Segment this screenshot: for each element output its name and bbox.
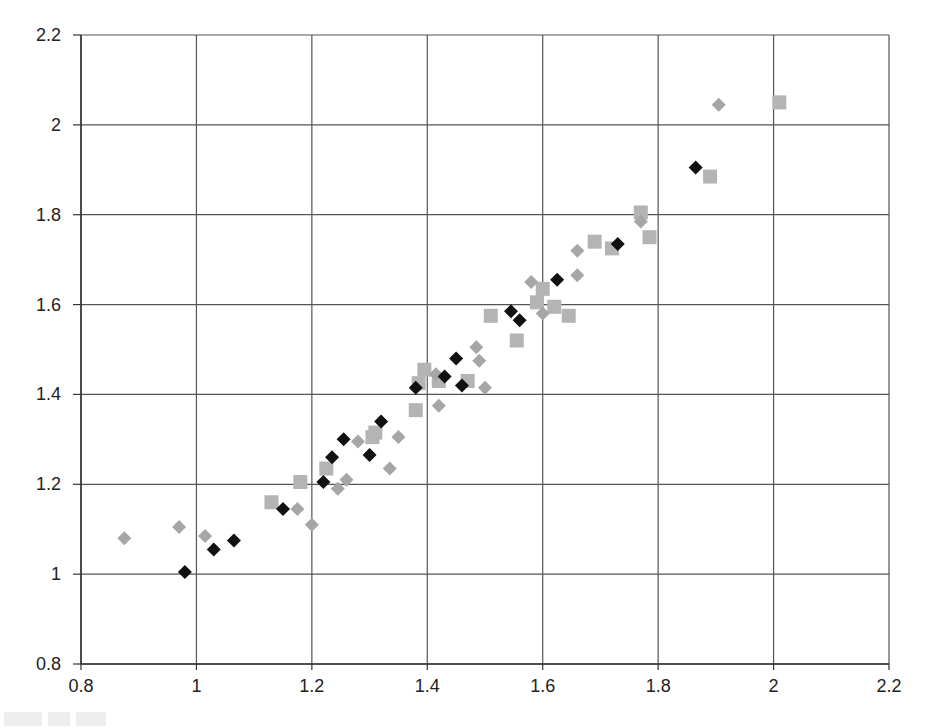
chart-canvas: 0.811.21.41.61.822.2 0.811.21.41.61.822.… (0, 0, 925, 728)
diamond-marker (290, 502, 304, 516)
data-points (117, 95, 786, 579)
x-tick-label: 1.6 (530, 676, 555, 696)
diamond-marker (207, 542, 221, 556)
y-tick-label: 1 (51, 564, 61, 584)
diamond-marker (305, 518, 319, 532)
diamond-marker (391, 430, 405, 444)
diamond-marker (449, 351, 463, 365)
square-marker (530, 295, 544, 309)
y-tick-label: 1.4 (36, 384, 61, 404)
square-marker (293, 475, 307, 489)
square-marker (368, 426, 382, 440)
axes (73, 35, 889, 670)
diamond-marker (570, 244, 584, 258)
x-tick-label: 1.4 (415, 676, 440, 696)
x-tick-label: 1 (191, 676, 201, 696)
square-marker (417, 363, 431, 377)
gridlines (81, 35, 889, 664)
square-marker (562, 309, 576, 323)
square-marker (264, 495, 278, 509)
diamond-marker (550, 273, 564, 287)
square-marker (536, 282, 550, 296)
x-tick-label: 2.2 (876, 676, 901, 696)
diamond-marker (478, 381, 492, 395)
cropped-caption-fragment (4, 712, 114, 726)
diamond-marker (689, 161, 703, 175)
square-marker (642, 230, 656, 244)
square-marker (510, 334, 524, 348)
x-tick-label: 1.2 (299, 676, 324, 696)
diamond-marker (513, 313, 527, 327)
diamond-marker (469, 340, 483, 354)
y-tick-label: 1.6 (36, 295, 61, 315)
square-marker (772, 95, 786, 109)
diamond-marker (570, 268, 584, 282)
y-axis-tick-labels: 0.811.21.41.61.822.2 (36, 25, 61, 674)
diamond-marker (172, 520, 186, 534)
x-tick-label: 1.8 (646, 676, 671, 696)
diamond-marker (117, 531, 131, 545)
diamond-marker (337, 432, 351, 446)
series-3 (264, 95, 786, 509)
diamond-marker (198, 529, 212, 543)
square-marker (484, 309, 498, 323)
diamond-marker (383, 462, 397, 476)
y-tick-label: 0.8 (36, 654, 61, 674)
series-1 (178, 161, 703, 579)
scatter-chart: 0.811.21.41.61.822.2 0.811.21.41.61.822.… (0, 0, 925, 728)
diamond-marker (472, 354, 486, 368)
x-axis-tick-labels: 0.811.21.41.61.822.2 (68, 676, 901, 696)
square-marker (409, 403, 423, 417)
diamond-marker (432, 399, 446, 413)
square-marker (703, 170, 717, 184)
square-marker (547, 300, 561, 314)
diamond-marker (351, 435, 365, 449)
diamond-marker (363, 448, 377, 462)
square-marker (588, 235, 602, 249)
x-tick-label: 0.8 (68, 676, 93, 696)
square-marker (319, 462, 333, 476)
diamond-marker (504, 304, 518, 318)
y-tick-label: 1.8 (36, 205, 61, 225)
diamond-marker (316, 475, 330, 489)
y-tick-label: 2.2 (36, 25, 61, 45)
diamond-marker (178, 565, 192, 579)
y-tick-label: 2 (51, 115, 61, 135)
diamond-marker (712, 98, 726, 112)
y-tick-label: 1.2 (36, 474, 61, 494)
x-tick-label: 2 (769, 676, 779, 696)
series-2 (117, 98, 725, 546)
diamond-marker (227, 533, 241, 547)
